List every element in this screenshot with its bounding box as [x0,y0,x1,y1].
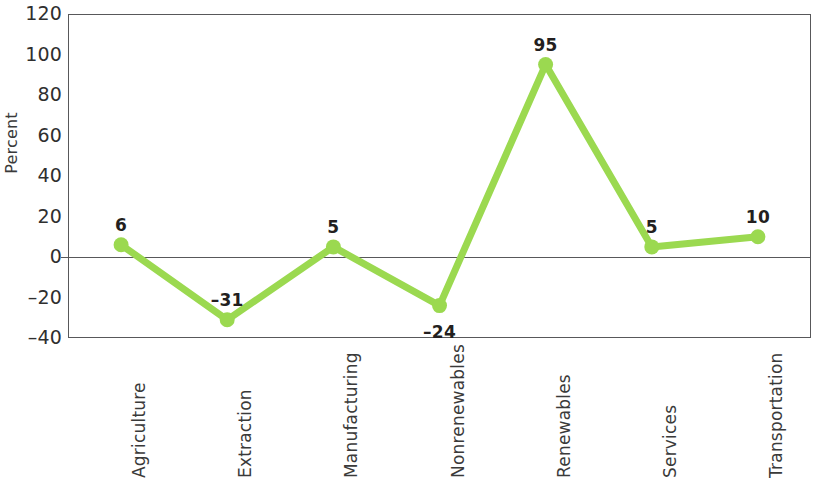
x-axis-label-agriculture: Agriculture [129,382,149,478]
data-point-label: 5 [646,217,658,237]
x-axis-label-services: Services [660,405,680,478]
y-tick-label: 0 [10,247,62,266]
y-tick-label: –40 [10,328,62,347]
zero-baseline [68,257,811,258]
line-chart: Percent 120100806040200–20–40 6–315–2495… [0,0,818,488]
data-point-label: 10 [746,207,770,227]
data-point-label: 5 [327,217,339,237]
data-point-label: –31 [211,290,244,310]
y-axis-tick-labels: 120100806040200–20–40 [0,0,62,488]
y-tick-label: 60 [10,126,62,145]
data-point-label: 6 [115,215,127,235]
plot-area [68,14,811,338]
x-axis-label-renewables: Renewables [554,374,574,478]
data-point-label: –24 [423,322,456,342]
x-axis-label-extraction: Extraction [235,389,255,478]
data-point-label: 95 [533,35,557,55]
y-tick-label: 20 [10,207,62,226]
y-tick-label: 40 [10,166,62,185]
zero-axis-tick [61,257,68,258]
y-tick-label: 120 [10,4,62,23]
y-tick-label: 100 [10,45,62,64]
y-tick-label: 80 [10,85,62,104]
x-axis-label-transportation: Transportation [766,352,786,478]
y-tick-label: –20 [10,288,62,307]
x-axis-label-nonrenewables: Nonrenewables [448,344,468,478]
x-axis-label-manufacturing: Manufacturing [341,352,361,478]
